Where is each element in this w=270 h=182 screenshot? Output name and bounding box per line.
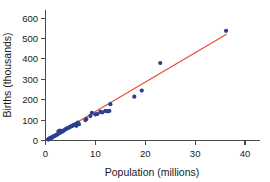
scatter-plot-figure: 0100200300400500600 010203040 Population… bbox=[0, 0, 270, 182]
y-tick-group: 0100200300400500600 bbox=[22, 13, 45, 146]
x-tick-label: 20 bbox=[140, 148, 151, 159]
x-tick-label: 10 bbox=[90, 148, 101, 159]
x-tick-label: 40 bbox=[240, 148, 251, 159]
data-point bbox=[107, 109, 111, 113]
x-tick-label: 0 bbox=[43, 148, 48, 159]
data-point bbox=[108, 102, 112, 106]
x-axis-title: Population (millions) bbox=[105, 166, 200, 178]
y-tick-label: 100 bbox=[22, 115, 38, 126]
data-point bbox=[132, 95, 136, 99]
y-axis-title: Births (thousands) bbox=[1, 32, 13, 117]
y-tick-label: 200 bbox=[22, 94, 38, 105]
y-tick-label: 500 bbox=[22, 33, 38, 44]
y-tick-label: 300 bbox=[22, 74, 38, 85]
x-axis: 010203040 bbox=[43, 141, 260, 160]
data-points-group bbox=[46, 29, 228, 142]
data-point bbox=[140, 88, 144, 92]
data-point bbox=[158, 61, 162, 65]
x-tick-label: 30 bbox=[190, 148, 201, 159]
x-tick-group: 010203040 bbox=[43, 141, 250, 160]
data-point bbox=[84, 117, 88, 121]
y-axis: 0100200300400500600 bbox=[22, 10, 45, 146]
y-tick-label: 600 bbox=[22, 13, 38, 24]
y-tick-label: 0 bbox=[33, 135, 38, 146]
data-point bbox=[224, 29, 228, 33]
chart-canvas: 0100200300400500600 010203040 Population… bbox=[0, 0, 270, 182]
data-point bbox=[77, 122, 81, 126]
y-tick-label: 400 bbox=[22, 53, 38, 64]
